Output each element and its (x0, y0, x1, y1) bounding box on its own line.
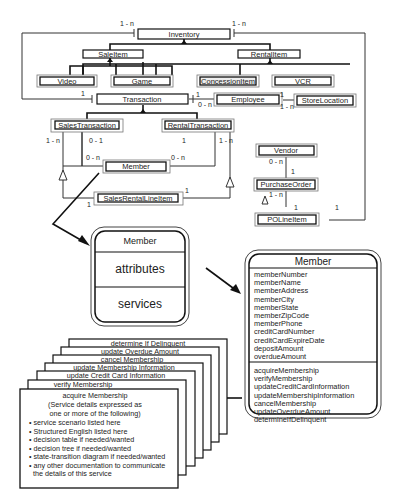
class-rental-item-label: RentalItem (251, 50, 287, 59)
svg-text:verify Membership: verify Membership (54, 380, 113, 389)
svg-text:0 - n: 0 - n (86, 154, 100, 161)
class-sales-transaction[interactable]: SalesTransaction (51, 119, 123, 132)
svg-text:1: 1 (87, 201, 91, 208)
member-class-detail[interactable]: Member memberNumber memberName memberAdd… (245, 250, 381, 424)
class-video[interactable]: Video (37, 75, 97, 87)
class-diagram-canvas: Inventory SaleItem RentalItem Video Game… (0, 0, 398, 500)
class-store-location[interactable]: StoreLocation (294, 94, 356, 107)
class-game-label: Game (132, 77, 152, 86)
service-card-stack: determine If Delinquent update Overdue A… (20, 339, 227, 488)
svg-text:1: 1 (294, 204, 298, 211)
class-member-label: Member (122, 162, 150, 171)
class-vendor-label: Vendor (274, 146, 298, 155)
svg-text:1: 1 (291, 168, 295, 175)
svg-text:0 - 1: 0 - 1 (89, 137, 103, 144)
svg-text:1 - n: 1 - n (280, 103, 294, 110)
svg-text:1: 1 (81, 90, 85, 97)
svg-text:1: 1 (196, 91, 200, 98)
class-game[interactable]: Game (111, 75, 173, 87)
class-purchase-order-label: PurchaseOrder (261, 180, 312, 189)
svg-text:1: 1 (280, 91, 284, 98)
class-sales-transaction-label: SalesTransaction (58, 121, 116, 130)
svg-text:0 - n: 0 - n (198, 101, 212, 108)
generic-class-attributes: attributes (115, 262, 164, 276)
svg-text:1 - n: 1 - n (120, 20, 134, 27)
svg-text:update Credit Card Information: update Credit Card Information (67, 371, 166, 380)
class-vcr[interactable]: VCR (272, 75, 334, 87)
class-purchase-order[interactable]: PurchaseOrder (254, 178, 318, 191)
svg-text:1 - n: 1 - n (269, 191, 283, 198)
class-vendor[interactable]: Vendor (256, 144, 317, 157)
class-rental-item[interactable]: RentalItem (238, 50, 300, 59)
class-transaction[interactable]: Transaction (97, 94, 188, 104)
class-sale-item[interactable]: SaleItem (83, 50, 143, 59)
class-rental-transaction[interactable]: RentalTransaction (162, 119, 234, 132)
svg-text:0 - n: 0 - n (269, 158, 283, 165)
svg-text:overdueAmount: overdueAmount (254, 352, 306, 361)
service-card-acquire-membership[interactable]: acquire Membership (Service details expr… (20, 389, 178, 488)
class-concession-item-label: ConcessionItem (201, 77, 255, 86)
class-store-location-label: StoreLocation (302, 96, 348, 105)
svg-text:determineIfDelinquent: determineIfDelinquent (254, 415, 326, 424)
class-vcr-label: VCR (295, 77, 311, 86)
svg-text:1 - n: 1 - n (232, 20, 246, 27)
class-rental-transaction-label: RentalTransaction (168, 121, 229, 130)
class-employee[interactable]: Employee (214, 93, 282, 106)
class-employee-label: Employee (231, 95, 264, 104)
class-concession-item[interactable]: ConcessionItem (197, 75, 259, 87)
generic-class-services: services (118, 297, 162, 311)
svg-text:1: 1 (335, 204, 339, 211)
svg-text:0 - n: 0 - n (171, 154, 185, 161)
generic-class-name: Member (123, 236, 156, 246)
svg-text:1 - n: 1 - n (46, 137, 60, 144)
class-video-label: Video (57, 77, 76, 86)
class-sales-rental-line-item-label: SalesRentalLineItem (103, 194, 172, 203)
class-po-line-item-label: POLineItem (267, 215, 307, 224)
generic-class-symbol[interactable]: Member attributes services (91, 227, 189, 326)
service-card-subtitle: one or more of the following) (49, 409, 140, 418)
member-class-name: Member (295, 256, 332, 267)
class-po-line-item[interactable]: POLineItem (255, 213, 319, 226)
service-card-title: acquire Membership (62, 391, 127, 400)
class-sales-rental-line-item[interactable]: SalesRentalLineItem (94, 192, 183, 205)
svg-text:the details of this service: the details of this service (33, 469, 112, 478)
class-member[interactable]: Member (103, 160, 170, 173)
svg-text:1 - n: 1 - n (219, 137, 233, 144)
class-inventory-label: Inventory (169, 30, 200, 39)
svg-text:1: 1 (182, 137, 186, 144)
svg-text:1: 1 (185, 187, 189, 194)
class-inventory[interactable]: Inventory (138, 29, 230, 39)
class-sale-item-label: SaleItem (98, 50, 128, 59)
class-transaction-label: Transaction (123, 95, 162, 104)
